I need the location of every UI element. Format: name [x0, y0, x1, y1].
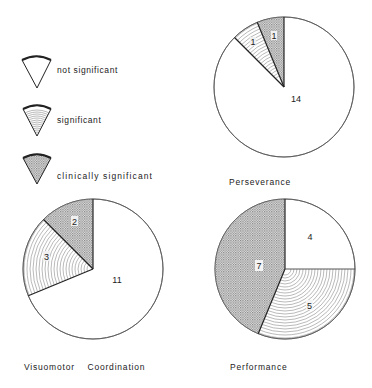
value-label: 3: [44, 252, 49, 262]
pie-performance: 4 7 5: [215, 199, 355, 339]
value-label: 2: [72, 217, 77, 227]
chart-title-perseverance: Perseverance: [229, 177, 291, 187]
legend-swatch-not-significant: [22, 57, 51, 88]
value-label: 1: [271, 31, 276, 41]
value-label: 1: [250, 37, 255, 47]
pie-perseverance: 1 1 14: [214, 17, 354, 157]
value-label: 7: [256, 261, 261, 271]
chart-title-visuomotor-coordination: Visuomotor Coordination: [24, 362, 145, 372]
legend-label-significant: significant: [57, 115, 101, 125]
value-label: 14: [291, 94, 301, 104]
value-label: 5: [307, 301, 312, 311]
legend-swatch-significant: [23, 106, 51, 136]
legend-label-clinically-significant: clinically significant: [57, 171, 153, 181]
legend-label-not-significant: not significant: [57, 65, 118, 75]
pie-visuomotor-coordination: 2 3 11: [23, 199, 163, 339]
chart-title-performance: Performance: [230, 362, 287, 372]
legend: [22, 57, 51, 184]
value-label: 4: [307, 232, 312, 242]
figure-canvas: 1 1 14 2 3 11 4 7 5: [0, 0, 372, 388]
legend-swatch-clinically-significant: [23, 155, 51, 184]
value-label: 11: [112, 275, 121, 285]
